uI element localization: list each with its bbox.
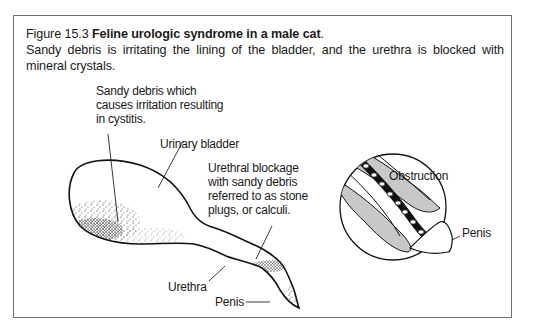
label-penis-main: Penis	[215, 295, 244, 309]
label-urethral-blockage: Urethral blockage with sandy debris refe…	[208, 161, 308, 217]
label-obstruction: Obstruction	[389, 169, 448, 183]
inset-obstruction-drawing	[340, 150, 460, 260]
label-sandy-debris: Sandy debris which causes irritation res…	[96, 84, 223, 126]
label-urinary-bladder: Urinary bladder	[160, 137, 239, 151]
inset-penis-leader	[452, 236, 460, 240]
label-penis-inset: Penis	[462, 226, 491, 240]
label-urethra: Urethra	[168, 280, 207, 294]
